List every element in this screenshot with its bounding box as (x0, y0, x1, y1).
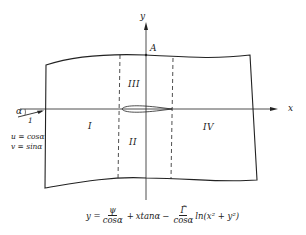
formula-term3-denominator: cosα (173, 216, 193, 225)
domain-boundary (45, 55, 257, 188)
x-axis-label: x (288, 104, 293, 113)
region-ii-label: II (129, 138, 137, 147)
y-axis-label: y (140, 12, 145, 21)
divider-left (118, 55, 120, 180)
region-iii-label: III (128, 80, 140, 89)
angle-alpha-label: α (16, 107, 22, 116)
freestream-magnitude-label: 1 (28, 117, 33, 125)
formula-term1-denominator: cosα (103, 216, 123, 225)
formula-plus: + (127, 211, 134, 221)
formula-term3: Γ̃ cosα (173, 206, 193, 226)
x-axis-arrow-icon (270, 107, 278, 111)
angle-arc (25, 109, 26, 115)
formula-term3-tail: ln(x² + y²) (195, 211, 239, 221)
y-axis-arrow-icon (144, 22, 148, 30)
diagram-canvas (0, 0, 306, 235)
formula-minus: − (162, 211, 169, 221)
formula-term1: ψ cosα (103, 206, 123, 226)
point-a-marker (145, 54, 147, 56)
formula-lhs: y = (86, 211, 101, 221)
point-a-label: A (150, 44, 157, 53)
v-equation: v = sinα (11, 143, 42, 151)
streamline-formula: y = ψ cosα + xtanα − Γ̃ cosα ln(x² + y²) (86, 206, 239, 226)
divider-right (171, 58, 173, 179)
freestream-arrow-icon (37, 111, 44, 115)
u-equation: u = cosα (11, 133, 45, 141)
region-iv-label: IV (203, 123, 214, 132)
region-i-label: I (88, 122, 92, 131)
formula-term2: xtanα (136, 211, 161, 221)
